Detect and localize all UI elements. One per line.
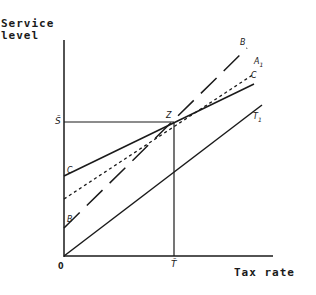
origin-label: 0 (58, 262, 64, 271)
point-z-label: Z (166, 111, 171, 120)
line-c-label: C (251, 71, 257, 80)
line-b-left-label: B (67, 215, 73, 224)
line-c-left-label: C (67, 166, 73, 175)
s-bar-label: S̄ (55, 116, 61, 126)
line-b-label: B (240, 38, 246, 47)
y-axis-label: Service level (1, 18, 54, 42)
diagram-canvas (0, 0, 316, 295)
t-bar-label: T̄ (171, 259, 177, 269)
line-a1 (64, 74, 254, 199)
line-t1-label: T1 (253, 112, 262, 123)
y-axis-label-line2: level (1, 30, 54, 42)
line-c (64, 84, 254, 176)
x-axis-label: Tax rate (234, 267, 295, 279)
line-a1-label: A1 (254, 57, 263, 68)
